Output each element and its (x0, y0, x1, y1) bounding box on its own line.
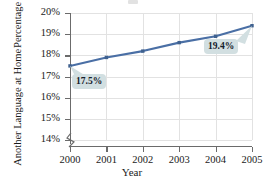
chart-figure: Another Language at Home Percentage Spea… (0, 0, 264, 182)
x-axis-tick-label: 2003 (159, 154, 199, 165)
y-axis-tick-label: 20% (28, 7, 60, 17)
gridline-vertical (252, 13, 253, 140)
y-axis-tick-label: 15% (28, 113, 60, 123)
gridline-horizontal (70, 98, 252, 99)
y-axis-tick (65, 55, 70, 56)
x-axis-tick (143, 147, 144, 152)
gridline-vertical (143, 13, 144, 140)
y-axis-title-line-2: Another Language at Home (12, 49, 23, 166)
y-axis-tick (65, 77, 70, 78)
x-axis-tick-label: 2002 (123, 154, 163, 165)
x-axis-line (70, 146, 252, 147)
gridline-horizontal (70, 140, 252, 141)
x-axis-tick (179, 147, 180, 152)
gridline-vertical (179, 13, 180, 140)
x-axis-tick-label: 2004 (196, 154, 236, 165)
gridline-vertical (216, 13, 217, 140)
first-point-callout: 17.5% (72, 74, 106, 89)
y-axis-tick (65, 13, 70, 14)
last-point-callout: 19.4% (204, 39, 238, 54)
y-axis-tick (65, 119, 70, 120)
x-axis-tick-label: 2001 (86, 154, 126, 165)
y-axis-tick-label: 17% (28, 71, 60, 81)
x-axis-tick (106, 147, 107, 152)
clipped-title-remnant (128, 0, 138, 4)
y-axis-title-line-1: Percentage Speaking (12, 0, 23, 48)
y-axis-tick (65, 140, 70, 141)
x-axis-tick-label: 2000 (50, 154, 90, 165)
gridline-vertical (106, 13, 107, 140)
x-axis-tick (70, 147, 71, 152)
x-axis-tick (216, 147, 217, 152)
y-axis-tick-label: 16% (28, 92, 60, 102)
x-axis-tick (252, 147, 253, 152)
gridline-horizontal (70, 55, 252, 56)
x-axis-title: Year (0, 166, 264, 178)
gridline-horizontal (70, 34, 252, 35)
y-axis-tick-label: 18% (28, 49, 60, 59)
y-axis-tick (65, 34, 70, 35)
gridline-horizontal (70, 119, 252, 120)
y-axis-tick-label: 14% (28, 134, 60, 144)
y-axis-tick (65, 98, 70, 99)
x-axis-tick-label: 2005 (232, 154, 264, 165)
y-axis-tick-label: 19% (28, 28, 60, 38)
gridline-horizontal (70, 13, 252, 14)
